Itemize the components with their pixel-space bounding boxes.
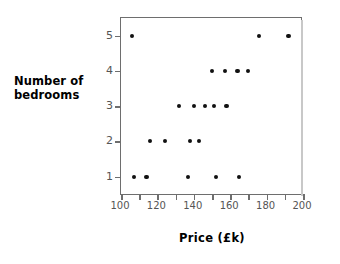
data-point bbox=[286, 34, 290, 38]
plot-area bbox=[120, 17, 302, 195]
data-point bbox=[192, 104, 196, 108]
y-axis-tick-label: 1 bbox=[101, 169, 113, 182]
data-point bbox=[144, 175, 148, 179]
x-axis-tick bbox=[212, 194, 214, 200]
data-point bbox=[203, 104, 207, 108]
x-axis-tick-label: 140 bbox=[183, 200, 202, 211]
data-point bbox=[148, 139, 152, 143]
y-axis-tick bbox=[115, 106, 121, 108]
x-axis-tick bbox=[176, 194, 178, 200]
x-axis-tick-label: 160 bbox=[220, 200, 239, 211]
y-axis-tick-label: 3 bbox=[101, 99, 113, 112]
x-axis-tick-label: 180 bbox=[256, 200, 275, 211]
x-axis-tick-label: 100 bbox=[110, 200, 129, 211]
y-axis-title-line-1: Number of bbox=[14, 74, 106, 88]
y-axis-tick bbox=[115, 141, 121, 143]
scatter-chart-figure: Number of bedrooms Price (£k) 1001201401… bbox=[0, 0, 340, 264]
data-point bbox=[223, 69, 227, 73]
data-point bbox=[246, 69, 250, 73]
data-point bbox=[214, 175, 218, 179]
data-point bbox=[197, 139, 201, 143]
data-point bbox=[130, 34, 134, 38]
x-axis-tick bbox=[285, 194, 287, 200]
y-axis-tick bbox=[115, 177, 121, 179]
data-point bbox=[237, 175, 241, 179]
data-point bbox=[186, 175, 190, 179]
data-point bbox=[212, 104, 216, 108]
y-axis-tick bbox=[115, 36, 121, 38]
data-point bbox=[163, 139, 167, 143]
x-axis-tick bbox=[139, 194, 141, 200]
y-axis-tick-label: 5 bbox=[101, 28, 113, 41]
data-point bbox=[235, 69, 239, 73]
x-axis-tick-label: 120 bbox=[147, 200, 166, 211]
y-axis-tick-label: 2 bbox=[101, 134, 113, 147]
x-axis-tick bbox=[248, 194, 250, 200]
y-axis-tick-label: 4 bbox=[101, 63, 113, 76]
x-axis-title: Price (£k) bbox=[120, 231, 304, 245]
y-axis-tick bbox=[115, 71, 121, 73]
x-axis-tick-label: 200 bbox=[292, 200, 311, 211]
data-point bbox=[188, 139, 192, 143]
data-point bbox=[132, 175, 136, 179]
data-point bbox=[224, 104, 228, 108]
data-point bbox=[210, 69, 214, 73]
data-point bbox=[177, 104, 181, 108]
y-axis-title: Number of bedrooms bbox=[14, 74, 106, 102]
y-axis-title-line-2: bedrooms bbox=[14, 88, 106, 102]
data-point bbox=[257, 34, 261, 38]
